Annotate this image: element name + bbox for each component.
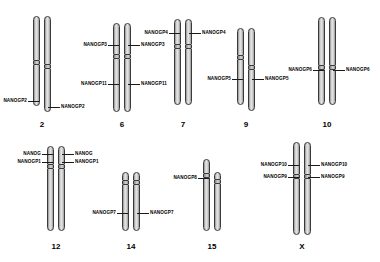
chr2-chromatid-right-p-arm — [44, 16, 51, 65]
chr9-chromatid-left-q-arm — [237, 59, 244, 105]
chr2-chromatid-right-q-arm — [44, 68, 51, 112]
chromosome-number-6: 6 — [111, 121, 133, 129]
chrX-label-nanogp9-right: NANOGP9 — [321, 175, 354, 180]
chromosome-number-9: 9 — [235, 121, 257, 129]
chr15-chromatid-right-p-arm — [214, 172, 221, 180]
chrX-tick-nanogp9-left — [288, 177, 299, 178]
chr14-chromatid-right-p-arm — [133, 172, 140, 181]
chrX-label-nanogp9-left: NANOGP9 — [257, 175, 287, 180]
chr6-tick-nanogp11-right — [128, 84, 140, 85]
chr14-chromatid-left-q-arm — [122, 184, 129, 231]
chr12-label-nanogp1-left: NANOGP1 — [12, 160, 41, 165]
chr10-chromatid-right-p-arm — [329, 17, 336, 66]
chrX-label-nanogp10-left: NANOGP10 — [255, 163, 287, 168]
chr7-chromatid-left-q-arm — [174, 48, 181, 105]
chr9-label-nanogp5-right: NANOGP5 — [265, 77, 297, 82]
chr2-label-nanogp2-right: NANOGP2 — [61, 105, 91, 110]
chrX-chromatid-left-p-arm — [293, 142, 300, 175]
chr10-label-nanogp6-left: NANOGP6 — [283, 68, 312, 73]
chr15-chromatid-right-q-arm — [214, 183, 221, 231]
chr6-label-nanogp3-right: NANOGP3 — [141, 43, 173, 48]
chr6-label-nanogp11-right: NANOGP11 — [141, 82, 175, 87]
chr15-tick-nanogp8-left — [198, 178, 209, 179]
chr9-chromatid-left-p-arm — [237, 28, 244, 56]
chr12-chromatid-right-q-arm — [58, 168, 65, 231]
chr12-tick-nanogp1-left — [42, 162, 53, 163]
chrX-chromatid-right-p-arm — [304, 142, 311, 175]
chr6-label-nanogp3-left: NANOGP3 — [78, 43, 107, 48]
chr6-tick-nanogp3-left — [108, 45, 119, 46]
chr7-chromatid-right-q-arm — [185, 48, 192, 105]
chr2-chromatid-left-q-arm — [33, 64, 40, 106]
chr2-chromatid-left-p-arm — [33, 16, 40, 61]
chr7-tick-nanogp4-left — [169, 33, 180, 34]
chr15-chromatid-left-q-arm — [203, 177, 210, 231]
chr6-label-nanogp11-left: NANOGP11 — [76, 82, 107, 87]
chr12-label-nanog-right: NANOG — [75, 152, 105, 157]
chr12-chromatid-left-q-arm — [47, 168, 54, 231]
chr2-tick-nanogp2-right — [48, 107, 60, 108]
chr12-tick-nanog-left — [42, 154, 53, 155]
chr12-label-nanog-left: NANOG — [14, 152, 41, 157]
chr9-chromatid-right-q-arm — [248, 69, 255, 111]
chr6-chromatid-left-p-arm — [113, 23, 120, 55]
chr6-tick-nanogp3-right — [128, 45, 140, 46]
chromosome-number-X: X — [291, 243, 313, 251]
chr10-tick-nanogp6-left — [313, 70, 324, 71]
chr7-chromatid-left-p-arm — [174, 19, 181, 45]
chr7-chromatid-right-p-arm — [185, 19, 192, 45]
chromosome-number-15: 15 — [201, 243, 223, 251]
chr6-chromatid-left-q-arm — [113, 58, 120, 112]
chromosome-number-12: 12 — [45, 243, 67, 251]
chr6-chromatid-right-p-arm — [124, 23, 131, 55]
chrX-tick-nanogp10-left — [288, 165, 299, 166]
chr9-tick-nanogp5-left — [232, 79, 243, 80]
chromosome-number-10: 10 — [316, 121, 338, 129]
chromosome-ideogram-figure: NANOGP2 NANOGP2 2 NANOGP3 NANOGP3 NANOGP… — [0, 0, 380, 262]
chrX-chromatid-left-q-arm — [293, 178, 300, 235]
chr9-label-nanogp5-left: NANOGP5 — [202, 77, 231, 82]
chr14-label-nanogp7-left: NANOGP7 — [87, 211, 116, 216]
chr15-chromatid-left-p-arm — [203, 159, 210, 174]
chr10-tick-nanogp6-right — [333, 70, 345, 71]
chr6-tick-nanogp11-left — [108, 84, 119, 85]
chr10-label-nanogp6-right: NANOGP6 — [346, 68, 378, 73]
chromosome-number-7: 7 — [172, 121, 194, 129]
chr14-chromatid-left-p-arm — [122, 172, 129, 181]
chr14-chromatid-right-q-arm — [133, 184, 140, 231]
chr14-tick-nanogp7-right — [137, 213, 149, 214]
chr7-label-nanogp4-right: NANOGP4 — [202, 31, 234, 36]
chr10-chromatid-right-q-arm — [329, 69, 336, 105]
chr14-label-nanogp7-right: NANOGP7 — [150, 211, 182, 216]
chrX-chromatid-right-q-arm — [304, 178, 311, 235]
chr7-label-nanogp4-left: NANOGP4 — [139, 31, 168, 36]
chr10-chromatid-left-q-arm — [318, 69, 325, 105]
chr12-tick-nanog-right — [62, 154, 74, 155]
chr9-chromatid-right-p-arm — [248, 28, 255, 66]
chromosome-number-14: 14 — [120, 243, 142, 251]
chr7-tick-nanogp4-right — [189, 33, 201, 34]
chrX-tick-nanogp10-right — [308, 165, 320, 166]
chr10-chromatid-left-p-arm — [318, 17, 325, 66]
chr15-label-nanogp8-left: NANOGP8 — [168, 176, 197, 181]
chr2-tick-nanogp2-left — [28, 101, 39, 102]
chr6-chromatid-right-q-arm — [124, 58, 131, 112]
chr9-tick-nanogp5-right — [252, 79, 264, 80]
chrX-tick-nanogp9-right — [308, 177, 320, 178]
chr12-label-nanogp1-right: NANOGP1 — [75, 160, 107, 165]
chr2-label-nanogp2-left: NANOGP2 — [2, 99, 27, 104]
chr14-tick-nanogp7-left — [117, 213, 128, 214]
chromosome-number-2: 2 — [31, 121, 53, 129]
chr12-tick-nanogp1-right — [62, 162, 74, 163]
chrX-label-nanogp10-right: NANOGP10 — [321, 163, 356, 168]
